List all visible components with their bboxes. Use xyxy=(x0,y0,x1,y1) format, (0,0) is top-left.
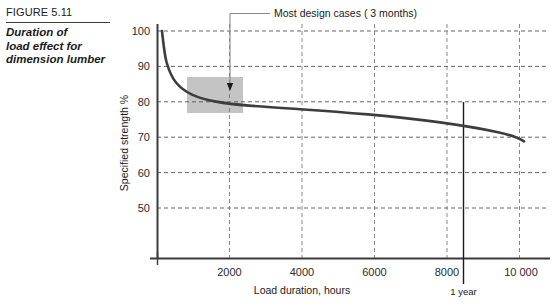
horizontal-gridlines xyxy=(157,31,546,208)
y-tick-label-100: 100 xyxy=(132,25,150,37)
x-tick-label-8000: 8000 xyxy=(435,266,459,278)
x-tick-label-6000: 6000 xyxy=(362,266,386,278)
y-tick-label-70: 70 xyxy=(138,131,150,143)
y-tick-label-60: 60 xyxy=(138,167,150,179)
y-axis-title: Specified strength % xyxy=(118,95,130,191)
y-tick-label-50: 50 xyxy=(138,202,150,214)
y-tick-label-80: 80 xyxy=(138,96,150,108)
y-tick-label-90: 90 xyxy=(138,60,150,72)
y-axis-tick-labels: 100 90 80 70 60 50 xyxy=(132,25,150,214)
x-tick-label-4000: 4000 xyxy=(290,266,314,278)
x-tick-label-10000: 10 000 xyxy=(504,266,538,278)
one-year-label: 1 year xyxy=(450,286,476,297)
vertical-gridlines xyxy=(230,24,520,258)
x-tick-label-2000: 2000 xyxy=(217,266,241,278)
x-axis-tick-labels: 2000 4000 6000 8000 10 000 xyxy=(217,266,538,278)
chart-canvas: 100 90 80 70 60 50 2000 4000 6000 8000 1… xyxy=(0,0,560,308)
most-design-cases-label: Most design cases ( 3 months) xyxy=(274,7,417,19)
x-axis-title: Load duration, hours xyxy=(254,284,350,296)
